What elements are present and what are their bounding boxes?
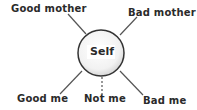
connector-good-me: [60, 71, 82, 94]
label-not-me: Not me: [84, 93, 126, 104]
label-bad-me: Bad me: [143, 95, 186, 106]
connector-bad-mother: [120, 17, 137, 35]
label-bad-mother: Bad mother: [128, 7, 196, 18]
connector-bad-me: [120, 71, 143, 95]
self-label: Self: [90, 45, 114, 58]
label-good-mother: Good mother: [11, 3, 87, 14]
label-good-me: Good me: [17, 93, 68, 104]
connector-good-mother: [68, 14, 86, 34]
